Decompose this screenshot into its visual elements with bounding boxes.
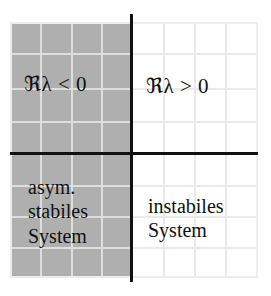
stability-diagram: ℜλ < 0 ℜλ > 0 asym. stabiles System inst… xyxy=(0,0,271,296)
label-asymptotically-stable-system: asym. stabiles System xyxy=(28,175,88,248)
label-unstable-system: instabiles System xyxy=(148,194,224,243)
label-stable-condition: ℜλ < 0 xyxy=(24,72,87,97)
gridline-vertical xyxy=(101,22,103,278)
label-unstable-condition: ℜλ > 0 xyxy=(146,74,209,99)
imaginary-axis xyxy=(130,14,133,282)
gridline-vertical xyxy=(225,22,227,278)
gridline-horizontal xyxy=(10,121,258,123)
real-axis xyxy=(10,152,258,155)
gridline-horizontal xyxy=(10,53,258,55)
